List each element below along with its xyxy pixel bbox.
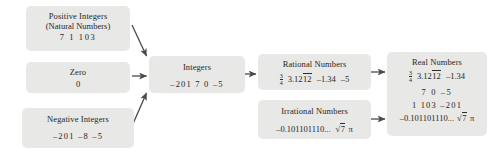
real-numbers-title: Real Numbers <box>387 57 487 67</box>
repeating-decimal: 3.1212 <box>417 70 441 81</box>
real-numbers-row-irrational: –0.101101110...√7π <box>387 113 487 123</box>
value-negative-decimal: –1.34 <box>446 71 465 81</box>
node-rational-numbers[interactable]: Rational Numbers 343.1212–1.34–5 <box>258 54 371 90</box>
arrow-negative-integers-to-integers <box>132 93 147 126</box>
node-negative-integers[interactable]: Negative Integers –201 –8 –5 <box>22 108 134 148</box>
positive-integers-title: Positive Integers <box>26 11 130 21</box>
positive-integers-subtitle: (Natural Numbers) <box>26 21 130 31</box>
negative-integers-values: –201 –8 –5 <box>22 131 134 141</box>
square-root-seven: √7 <box>336 124 346 134</box>
pi-symbol: π <box>470 113 474 123</box>
node-zero[interactable]: Zero 0 <box>26 62 130 93</box>
fraction-three-fourths: 34 <box>409 70 412 84</box>
node-real-numbers[interactable]: Real Numbers 343.1212–1.34 7 0 –5 1 103 … <box>387 52 487 136</box>
fraction-three-fourths: 34 <box>280 73 283 87</box>
node-irrational-numbers[interactable]: Irrational Numbers –0.101101110...√7π <box>258 100 371 139</box>
real-numbers-row-integers-mixed: 1 103 –201 <box>387 100 487 110</box>
number-classification-diagram: Positive Integers (Natural Numbers) 7 1 … <box>0 0 490 156</box>
square-root-seven: √7 <box>457 113 467 123</box>
negative-integers-title: Negative Integers <box>22 114 134 124</box>
value-negative-five: –5 <box>341 74 350 84</box>
pi-symbol: π <box>348 124 352 134</box>
rational-numbers-values: 343.1212–1.34–5 <box>258 73 371 87</box>
irrational-numbers-values: –0.101101110...√7π <box>258 124 371 134</box>
node-positive-integers[interactable]: Positive Integers (Natural Numbers) 7 1 … <box>26 6 130 51</box>
integers-values: –201 7 0 –5 <box>149 79 245 89</box>
zero-values: 0 <box>26 79 130 89</box>
nonrepeating-decimal: –0.101101110... <box>400 113 454 123</box>
integers-title: Integers <box>149 62 245 72</box>
repeating-decimal: 3.1212 <box>288 73 312 84</box>
real-numbers-row-integers-positive: 7 0 –5 <box>387 87 487 97</box>
nonrepeating-decimal: –0.101101110... <box>276 124 330 134</box>
zero-title: Zero <box>26 67 130 77</box>
node-integers[interactable]: Integers –201 7 0 –5 <box>149 56 245 93</box>
overline-digits: 12 <box>303 73 312 84</box>
irrational-numbers-title: Irrational Numbers <box>258 106 371 116</box>
value-negative-decimal: –1.34 <box>317 74 336 84</box>
positive-integers-values: 7 1 103 <box>26 32 130 42</box>
arrow-positive-integers-to-integers <box>132 25 147 56</box>
real-numbers-row-rational: 343.1212–1.34 <box>387 70 487 84</box>
rational-numbers-title: Rational Numbers <box>258 59 371 69</box>
overline-digits: 12 <box>432 70 441 81</box>
